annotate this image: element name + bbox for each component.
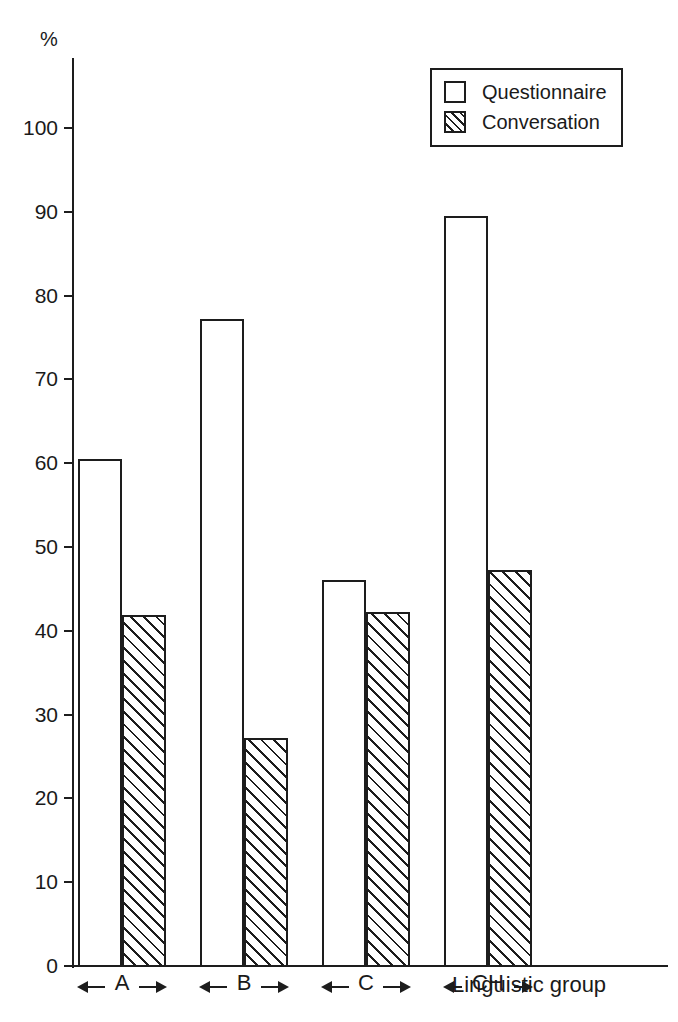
bar-ch-conversation [488, 570, 532, 967]
y-tick-90 [64, 211, 73, 213]
y-tick-100 [64, 127, 73, 129]
y-tick-0 [64, 965, 73, 967]
y-tick-label-70: 70 [35, 367, 58, 391]
y-tick-label-10: 10 [35, 870, 58, 894]
legend-item-questionnaire: Questionnaire [444, 77, 607, 107]
x-span-line-left-a [88, 986, 105, 988]
bar-a-questionnaire [78, 459, 122, 967]
x-span-line-left-b [210, 986, 227, 988]
x-category-label-c: C [358, 970, 374, 996]
y-tick-70 [64, 378, 73, 380]
y-tick-80 [64, 295, 73, 297]
y-tick-label-30: 30 [35, 703, 58, 727]
y-tick-60 [64, 462, 73, 464]
y-tick-label-60: 60 [35, 451, 58, 475]
hatched-square-icon [444, 111, 466, 133]
x-category-label-a: A [115, 970, 130, 996]
y-axis-line [72, 58, 74, 968]
y-tick-label-90: 90 [35, 200, 58, 224]
x-span-line-left-c [332, 986, 349, 988]
y-tick-label-40: 40 [35, 619, 58, 643]
legend-label-questionnaire: Questionnaire [482, 81, 607, 104]
y-tick-50 [64, 546, 73, 548]
y-tick-20 [64, 797, 73, 799]
empty-square-icon [444, 81, 466, 103]
chart-legend: Questionnaire Conversation [430, 68, 623, 147]
x-span-arrowhead-right-c [400, 981, 411, 993]
y-tick-10 [64, 881, 73, 883]
y-tick-label-100: 100 [23, 116, 58, 140]
bar-a-conversation [122, 615, 166, 967]
x-axis-title: Linguistic group [452, 972, 606, 998]
bar-b-questionnaire [200, 319, 244, 967]
x-span-arrowhead-left-a [77, 981, 88, 993]
bar-c-conversation [366, 612, 410, 967]
x-span-arrowhead-left-b [199, 981, 210, 993]
legend-item-conversation: Conversation [444, 107, 607, 137]
x-span-arrowhead-right-a [156, 981, 167, 993]
x-category-label-b: B [237, 970, 252, 996]
y-tick-40 [64, 630, 73, 632]
legend-label-conversation: Conversation [482, 111, 600, 134]
x-span-arrowhead-right-b [278, 981, 289, 993]
y-axis-unit-label: % [40, 28, 58, 51]
bar-b-conversation [244, 738, 288, 967]
bar-ch-questionnaire [444, 216, 488, 967]
x-span-line-right-b [261, 986, 278, 988]
y-tick-label-80: 80 [35, 284, 58, 308]
x-span-line-right-a [139, 986, 156, 988]
bar-c-questionnaire [322, 580, 366, 967]
y-tick-label-20: 20 [35, 786, 58, 810]
y-tick-label-50: 50 [35, 535, 58, 559]
bars-layer [0, 0, 678, 1022]
y-tick-30 [64, 714, 73, 716]
bar-chart-figure: % 0102030405060708090100 Questionnaire C… [0, 0, 678, 1022]
x-axis-line [72, 965, 668, 967]
x-span-line-right-c [383, 986, 400, 988]
x-span-arrowhead-left-c [321, 981, 332, 993]
